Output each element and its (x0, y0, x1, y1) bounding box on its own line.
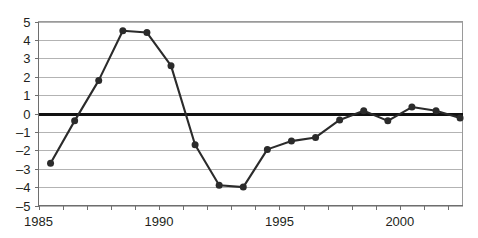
y-tick-label-3: 3 (23, 51, 30, 66)
x-tick-label-1990: 1990 (144, 214, 173, 229)
y-tick-label--5: –5 (16, 199, 30, 214)
data-point (240, 184, 247, 191)
data-point (192, 141, 199, 148)
x-tick-label-1995: 1995 (265, 214, 294, 229)
y-tick-label--3: –3 (16, 162, 30, 177)
y-tick-label--4: –4 (16, 180, 30, 195)
data-point (71, 117, 78, 124)
data-point (408, 104, 415, 111)
x-tick-label-2000: 2000 (385, 214, 414, 229)
data-point (47, 160, 54, 167)
y-tick-label--1: –1 (16, 125, 30, 140)
data-point (312, 134, 319, 141)
data-point (433, 107, 440, 114)
x-tick-label-1985: 1985 (24, 214, 53, 229)
data-point (119, 27, 126, 34)
y-tick-label-0: 0 (23, 107, 30, 122)
y-tick-label-1: 1 (23, 88, 30, 103)
data-point (360, 107, 367, 114)
data-point (336, 116, 343, 123)
data-point (384, 117, 391, 124)
data-point (216, 182, 223, 189)
chart-canvas: 543210–1–2–3–4–5 1985199019952000 (0, 0, 478, 238)
data-point (95, 77, 102, 84)
data-point (457, 115, 464, 122)
y-tick-label--2: –2 (16, 143, 30, 158)
data-point (168, 62, 175, 69)
line-chart: 543210–1–2–3–4–5 1985199019952000 (0, 0, 478, 238)
y-tick-label-5: 5 (23, 15, 30, 30)
y-tick-label-2: 2 (23, 70, 30, 85)
y-tick-label-4: 4 (23, 33, 30, 48)
data-point (143, 29, 150, 36)
data-point (288, 138, 295, 145)
data-point (264, 146, 271, 153)
